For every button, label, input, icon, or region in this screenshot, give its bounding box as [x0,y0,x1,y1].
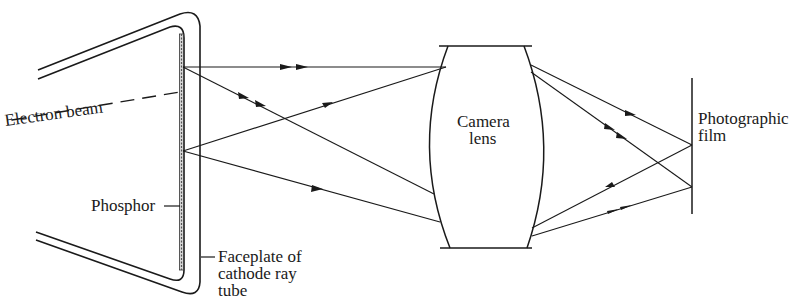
film-label-line1: Photographic [698,110,789,127]
crt-photography-diagram: Electron beam Phosphor Faceplate of cath… [0,0,807,306]
diagram-canvas [0,0,807,306]
film-label-line2: film [698,127,726,144]
faceplate-label-line1: Faceplate of [218,248,302,265]
ray-arrows-image-side [604,110,636,214]
crt-outer-wall [36,13,200,294]
rays-object-side [183,67,446,222]
phosphor-layer [180,34,184,270]
crt-inner-wall [36,26,184,280]
camera-lens-label-line1: Camera [457,113,510,130]
lens-right-surface [524,46,544,248]
camera-lens-label-line2: lens [469,130,496,147]
crt-tube [36,13,200,294]
phosphor-label: Phosphor [91,197,155,214]
faceplate-label-line3: tube [218,282,247,299]
faceplate-label-line2: cathode ray [218,265,297,282]
lens-left-surface [429,46,450,248]
ray-arrows-object-side [238,64,333,192]
